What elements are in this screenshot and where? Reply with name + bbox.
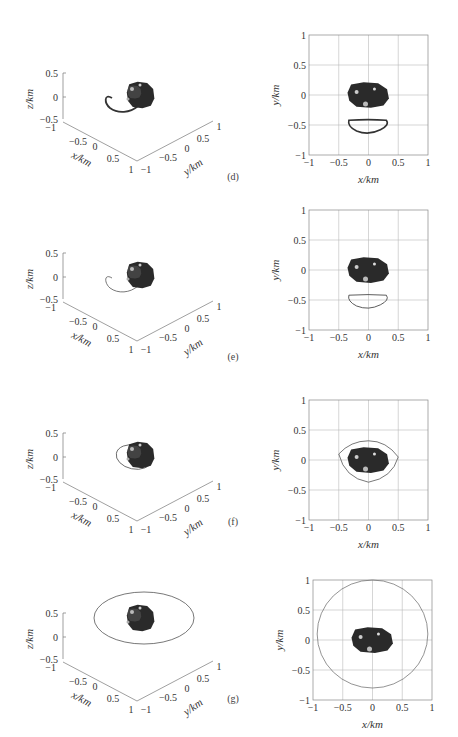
svg-text:1: 1 [305,575,310,586]
y-axis-label: y/km [273,630,285,652]
svg-text:1: 1 [430,702,435,713]
subfigure-label-g: (g) [213,693,253,704]
asteroid-body [352,627,393,653]
svg-text:0: 0 [305,635,310,646]
svg-text:−0.5: −0.5 [292,665,310,676]
svg-text:0.5: 0.5 [298,605,311,616]
svg-text:−0.5: −0.5 [334,702,352,713]
plot-2d-g: 10.50−0.5−1−1−0.500.51 y/km x/km [0,0,458,737]
svg-text:−1: −1 [308,702,319,713]
x-axis-label: x/km [361,718,383,730]
svg-text:0: 0 [370,702,375,713]
svg-text:0.5: 0.5 [396,702,409,713]
